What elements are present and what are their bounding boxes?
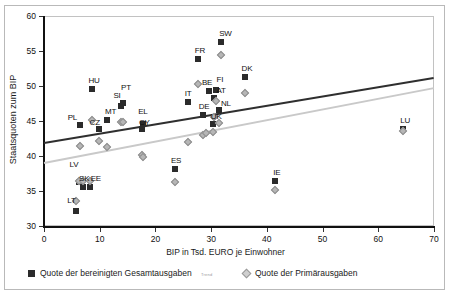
- point-label-lt: LT: [67, 196, 75, 205]
- point-label-uk: UK: [211, 112, 222, 121]
- x-tick-label: 60: [365, 234, 391, 244]
- point-label-sk: SK: [79, 174, 89, 183]
- x-tick: [100, 228, 101, 232]
- point-label-nl: NL: [221, 99, 231, 108]
- point-label-el: EL: [138, 107, 147, 116]
- point-label-lv: LV: [70, 160, 79, 169]
- trend-annotation: Trend: [201, 272, 212, 277]
- point-label-fr: FR: [195, 46, 205, 55]
- data-point-fr-total: [195, 56, 201, 62]
- data-point-es-total: [172, 166, 178, 172]
- y-axis-line: [43, 16, 45, 227]
- x-tick-label: 10: [87, 234, 113, 244]
- legend-square-icon: [28, 270, 35, 277]
- data-point-sw-total: [218, 39, 224, 45]
- legend-item-primary: Quote der Primärausgaben: [243, 268, 358, 278]
- point-label-fi: FI: [217, 75, 224, 84]
- legend-label-primary: Quote der Primärausgaben: [255, 268, 358, 278]
- x-tick: [267, 228, 268, 232]
- x-tick-label: 20: [142, 234, 168, 244]
- x-axis-line: [43, 226, 435, 228]
- y-tick-label: 60: [12, 11, 36, 21]
- point-label-de: DE: [199, 102, 210, 111]
- x-axis-title: BIP in Tsd. EURO je Einwohner: [0, 247, 451, 257]
- point-label-dk: DK: [242, 64, 253, 73]
- y-tick-label: 45: [12, 116, 36, 126]
- scatter-chart-figure: Staatsquoten zum BIP 30354045505560 0102…: [0, 0, 451, 296]
- y-tick-label: 40: [12, 151, 36, 161]
- y-tick-label: 30: [12, 221, 36, 231]
- data-point-dk-total: [242, 74, 248, 80]
- point-label-pt: PT: [121, 83, 131, 92]
- y-tick-label: 35: [12, 186, 36, 196]
- x-tick: [378, 228, 379, 232]
- legend-item-total: Quote der bereinigten Gesamtausgaben: [28, 268, 192, 278]
- point-label-ee: EE: [91, 174, 101, 183]
- chart-legend: Quote der bereinigten Gesamtausgaben Quo…: [0, 264, 451, 286]
- data-point-pt-total: [120, 100, 126, 106]
- point-label-it: IT: [185, 89, 192, 98]
- x-tick: [211, 228, 212, 232]
- legend-label-total: Quote der bereinigten Gesamtausgaben: [40, 268, 192, 278]
- point-label-pl: PL: [68, 113, 77, 122]
- point-label-si: SI: [113, 91, 120, 100]
- x-tick-label: 50: [310, 234, 336, 244]
- point-label-at: AT: [216, 86, 225, 95]
- x-tick-label: 70: [421, 234, 447, 244]
- x-tick: [155, 228, 156, 232]
- data-point-hu-total: [89, 86, 95, 92]
- point-label-cy: CY: [139, 118, 150, 127]
- x-tick: [44, 228, 45, 232]
- x-tick-label: 40: [254, 234, 280, 244]
- y-tick-label: 55: [12, 46, 36, 56]
- y-tick-label: 50: [12, 81, 36, 91]
- data-point-ie-total: [272, 178, 278, 184]
- plot-area: [44, 16, 434, 226]
- data-point-lt-total: [73, 208, 79, 214]
- point-label-es: ES: [171, 156, 181, 165]
- point-label-mt: MT: [105, 107, 116, 116]
- x-tick-label: 0: [31, 234, 57, 244]
- point-label-ie: IE: [273, 168, 280, 177]
- point-label-lu: LU: [400, 116, 410, 125]
- x-tick: [323, 228, 324, 232]
- point-label-sw: SW: [219, 29, 232, 38]
- point-label-cz: CZ: [90, 118, 100, 127]
- data-point-pl-total: [77, 122, 83, 128]
- point-label-be: BE: [202, 78, 212, 87]
- legend-diamond-icon: [242, 268, 252, 278]
- x-tick: [434, 228, 435, 232]
- data-point-it-total: [185, 99, 191, 105]
- point-label-hu: HU: [88, 76, 99, 85]
- data-point-de-total: [200, 112, 206, 118]
- data-point-mt-total: [104, 117, 110, 123]
- data-point-be-total: [206, 88, 212, 94]
- x-tick-label: 30: [198, 234, 224, 244]
